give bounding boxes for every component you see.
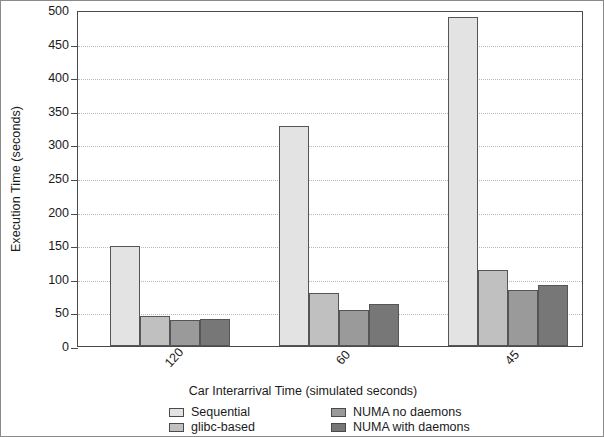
y-tick-label-200: 200 xyxy=(23,207,69,219)
legend-label-sequential: Sequential xyxy=(191,406,250,419)
y-tick-mark-400 xyxy=(71,79,78,80)
y-tick-label-450: 450 xyxy=(23,39,69,51)
legend-item-numa-no-daemons: NUMA no daemons xyxy=(331,406,509,419)
legend-item-numa-with-daemons: NUMA with daemons xyxy=(331,421,509,434)
y-tick-mark-200 xyxy=(71,214,78,215)
y-tick-label-300: 300 xyxy=(23,139,69,151)
y-tick-label-350: 350 xyxy=(23,106,69,118)
y-tick-label-500: 500 xyxy=(23,5,69,17)
bar-numa-with-daemons-45 xyxy=(538,285,568,346)
legend-item-glibc-based: glibc-based xyxy=(169,421,331,434)
plot-area xyxy=(77,11,583,347)
y-tick-label-0: 0 xyxy=(23,341,69,353)
legend-swatch-glibc-based xyxy=(169,423,184,432)
y-tick-mark-0 xyxy=(71,348,78,349)
y-tick-mark-250 xyxy=(71,180,78,181)
bar-glibc-based-45 xyxy=(478,270,508,346)
y-tick-label-50: 50 xyxy=(23,307,69,319)
bar-sequential-120 xyxy=(110,246,140,346)
bar-sequential-60 xyxy=(279,126,309,346)
legend-swatch-numa-with-daemons xyxy=(331,423,346,432)
y-tick-mark-450 xyxy=(71,46,78,47)
bar-numa-no-daemons-45 xyxy=(508,290,538,346)
bar-glibc-based-60 xyxy=(309,293,339,346)
chart-figure: Execution Time (seconds) 050100150200250… xyxy=(0,0,604,437)
y-tick-mark-100 xyxy=(71,281,78,282)
y-tick-label-250: 250 xyxy=(23,173,69,185)
y-tick-mark-350 xyxy=(71,113,78,114)
legend-item-sequential: Sequential xyxy=(169,406,331,419)
y-tick-label-150: 150 xyxy=(23,240,69,252)
legend-label-glibc-based: glibc-based xyxy=(191,421,255,434)
bar-sequential-45 xyxy=(448,17,478,346)
legend-label-numa-with-daemons: NUMA with daemons xyxy=(353,421,470,434)
bar-numa-with-daemons-60 xyxy=(369,304,399,346)
y-tick-mark-300 xyxy=(71,146,78,147)
y-tick-mark-50 xyxy=(71,314,78,315)
y-tick-label-100: 100 xyxy=(23,274,69,286)
legend-swatch-sequential xyxy=(169,408,184,417)
bar-series-layer xyxy=(78,12,582,346)
x-axis-title: Car Interarrival Time (simulated seconds… xyxy=(1,384,604,398)
chart-legend: SequentialNUMA no daemonsglibc-basedNUMA… xyxy=(169,405,509,435)
y-tick-mark-150 xyxy=(71,247,78,248)
y-tick-label-400: 400 xyxy=(23,72,69,84)
legend-label-numa-no-daemons: NUMA no daemons xyxy=(353,406,461,419)
bar-numa-with-daemons-120 xyxy=(200,319,230,346)
bar-glibc-based-120 xyxy=(140,316,170,346)
legend-swatch-numa-no-daemons xyxy=(331,408,346,417)
